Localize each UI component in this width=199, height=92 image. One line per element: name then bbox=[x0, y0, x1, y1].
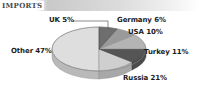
page-title: IMPORTS bbox=[2, 1, 44, 10]
chart-plot-area: UK 5% Germany 6% USA 10% Turkey 11% Russ… bbox=[0, 11, 199, 92]
pie-label-russia: Russia 21% bbox=[123, 74, 167, 82]
pie-label-germany: Germany 6% bbox=[117, 16, 166, 24]
imports-pie-chart-figure: IMPORTS bbox=[0, 0, 199, 92]
pie-label-turkey: Turkey 11% bbox=[144, 48, 188, 56]
pie-label-uk: UK 5% bbox=[49, 16, 74, 24]
pie-label-usa: USA 10% bbox=[128, 28, 163, 36]
pie-label-other: Other 47% bbox=[11, 47, 52, 55]
